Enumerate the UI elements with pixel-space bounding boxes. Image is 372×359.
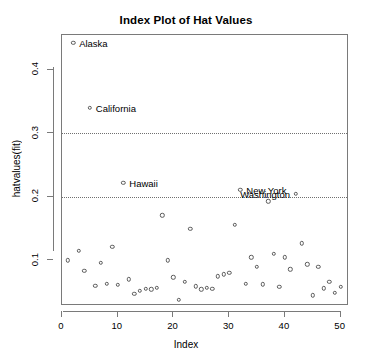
y-tick-label-text: 0.1 <box>30 253 40 266</box>
chart-title: Index Plot of Hat Values <box>0 14 372 26</box>
data-point <box>272 252 276 256</box>
data-point <box>110 245 114 249</box>
data-point <box>255 264 259 268</box>
data-point <box>88 106 92 110</box>
point-label-alaska: Alaska <box>79 37 108 48</box>
data-point <box>121 181 125 185</box>
data-point <box>127 277 131 281</box>
data-point <box>205 285 209 289</box>
data-point <box>216 274 220 278</box>
data-point <box>233 223 237 227</box>
x-tick <box>61 311 62 317</box>
y-tick-label: 0.1 <box>28 245 42 273</box>
data-point <box>288 267 292 271</box>
y-tick <box>47 196 53 197</box>
y-tick <box>47 259 53 260</box>
data-point <box>93 283 97 287</box>
data-point <box>160 213 164 217</box>
data-point <box>177 297 181 301</box>
data-point <box>143 287 147 291</box>
chart-figure: Index Plot of Hat Values hatvalues(fit) … <box>0 0 372 359</box>
y-tick <box>47 132 53 133</box>
plot-area: AlaskaCaliforniaHawaiiNew YorkWashington <box>61 34 348 305</box>
data-point <box>221 272 225 276</box>
x-tick-label: 0 <box>58 320 63 331</box>
data-point <box>322 286 326 290</box>
data-point <box>188 226 192 230</box>
x-tick <box>228 311 229 317</box>
y-tick-label-text: 0.2 <box>30 189 40 202</box>
x-tick <box>117 311 118 317</box>
x-axis-line <box>63 311 341 312</box>
data-point <box>266 199 270 203</box>
data-point <box>82 269 86 273</box>
data-point <box>316 264 320 268</box>
data-point <box>338 285 342 289</box>
x-tick <box>284 311 285 317</box>
data-point <box>210 287 214 291</box>
data-point <box>138 289 142 293</box>
x-axis-title: Index <box>0 339 372 350</box>
y-tick-label: 0.2 <box>28 182 42 210</box>
y-tick-label: 0.4 <box>28 55 42 83</box>
data-point <box>65 258 69 262</box>
point-label-california: California <box>96 102 136 113</box>
data-point <box>132 292 136 296</box>
data-point <box>260 282 264 286</box>
y-tick <box>47 69 53 70</box>
data-point <box>116 283 120 287</box>
data-point <box>327 280 331 284</box>
data-point <box>299 241 303 245</box>
data-point <box>283 255 287 259</box>
x-tick <box>172 311 173 317</box>
x-tick <box>340 311 341 317</box>
data-point <box>149 287 153 291</box>
data-point <box>99 261 103 265</box>
reference-line-0-3 <box>62 133 347 134</box>
data-point <box>305 262 309 266</box>
data-point <box>333 290 337 294</box>
data-point <box>104 282 108 286</box>
data-point <box>77 249 81 253</box>
data-point <box>199 287 203 291</box>
y-axis-line <box>53 67 54 251</box>
x-tick-label: 10 <box>111 320 122 331</box>
data-point <box>227 271 231 275</box>
data-point <box>182 280 186 284</box>
x-tick-label: 50 <box>334 320 345 331</box>
data-point <box>244 282 248 286</box>
reference-line-0-2 <box>62 197 347 198</box>
data-point <box>249 255 253 259</box>
data-point <box>277 285 281 289</box>
data-point <box>166 258 170 262</box>
data-point <box>194 284 198 288</box>
data-point <box>171 275 175 279</box>
y-axis-title-label: hatvalues(fit) <box>12 140 22 197</box>
x-tick-label: 30 <box>223 320 234 331</box>
data-point <box>311 293 315 297</box>
x-tick-label: 40 <box>279 320 290 331</box>
y-tick-label: 0.3 <box>28 118 42 146</box>
x-tick-label: 20 <box>167 320 178 331</box>
data-point <box>71 40 75 44</box>
data-point <box>155 285 159 289</box>
point-label-hawaii: Hawaii <box>129 177 158 188</box>
y-tick-label-text: 0.3 <box>30 126 40 139</box>
point-label-washington: Washington <box>240 188 290 199</box>
y-axis-title: hatvalues(fit) <box>12 129 22 209</box>
data-point <box>294 191 298 195</box>
y-tick-label-text: 0.4 <box>30 62 40 75</box>
